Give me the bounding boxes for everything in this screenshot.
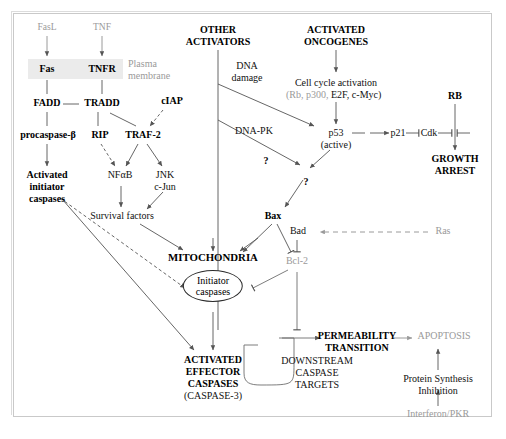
node-survival-factors: Survival factors [90,210,154,221]
node-activated-effector-l3: CASPASES [188,378,238,389]
node-permeability-l1: PERMEABILITY [318,330,396,341]
initiator-caspases-oval-inner: Initiator caspases [183,270,243,302]
cell-cycle-genes-gray: (Rb, p300, [286,89,329,100]
node-activated-initiator-l1: Activated [26,169,67,180]
node-question-1: ? [264,155,269,166]
node-p53-state: (active) [321,139,352,150]
membrane-label-line2: membrane [128,70,170,81]
node-downstream-l1: DOWNSTREAM [281,355,353,366]
node-question-2: ? [304,176,309,187]
node-bax: Bax [265,210,282,221]
node-protein-synth-l1: Protein Synthesis [403,373,473,384]
node-cell-cycle-genes: (Rb, p300, E2F, c-Myc) [286,89,381,100]
node-dna-damage-l2: damage [231,72,262,83]
node-dna-damage-l1: DNA [236,60,258,71]
node-ras: Ras [436,225,451,236]
node-growth-arrest-l2: ARREST [435,165,476,176]
node-fas: Fas [40,63,55,74]
node-bcl2: Bcl-2 [286,255,308,266]
node-caspase3: (CASPASE-3) [184,390,242,401]
node-downstream-l2: CASPASE [296,367,339,378]
node-apoptosis: APOPTOSIS [417,330,470,341]
node-activated-initiator-l2: initiator [30,181,65,192]
node-cjun: c-Jun [154,181,176,192]
node-procaspase: procaspase-β [20,129,76,140]
node-fasl: FasL [38,22,57,33]
node-other-activators-l2: ACTIVATORS [186,36,250,47]
node-activated-effector-l2: EFFECTOR [186,366,240,377]
node-activated-initiator-l3: caspases [29,193,65,204]
node-protein-synth-l2: Inhibition [418,385,457,396]
node-initiator-caspases-l2: caspases [196,286,230,297]
node-dna-pk: DNA-PK [235,125,273,136]
node-initiator-caspases-l1: Initiator [196,275,230,286]
node-rb: RB [448,90,462,101]
node-p53: p53 [329,127,344,138]
node-jnk: JNK [156,169,174,180]
node-nfab: NFαB [108,169,133,180]
node-activated-effector-l1: ACTIVATED [184,354,242,365]
membrane-label-line1: Plasma [128,58,157,69]
node-tradd: TRADD [84,97,120,108]
node-cdk: Cdk [421,127,438,138]
node-tnfr: TNFR [88,63,115,74]
cell-cycle-genes-black: E2F, c-Myc) [331,89,381,100]
node-downstream-l3: TARGETS [295,379,339,390]
node-ciap: cIAP [161,95,183,106]
node-activated-oncogenes-l1: ACTIVATED [307,24,365,35]
node-permeability-l2: TRANSITION [325,342,388,353]
node-traf2: TRAF-2 [125,129,161,140]
node-initiator-caspases-oval: Initiator caspases [183,270,243,302]
node-activated-oncogenes-l2: ONCOGENES [304,36,368,47]
node-interferon-pkr: Interferon/PKR [407,408,469,419]
node-growth-arrest-l1: GROWTH [431,153,478,164]
node-tnf: TNF [93,22,111,33]
node-cell-cycle-activation: Cell cycle activation [295,77,377,88]
node-p21: p21 [391,127,406,138]
node-other-activators-l1: OTHER [200,24,236,35]
node-fadd: FADD [33,97,60,108]
node-mitochondria: MITOCHONDRIA [168,251,258,263]
diagram-canvas: Bad --> FasL TNF Fas T [0,0,506,439]
node-bad: Bad [290,225,306,236]
node-rip: RIP [91,129,108,140]
